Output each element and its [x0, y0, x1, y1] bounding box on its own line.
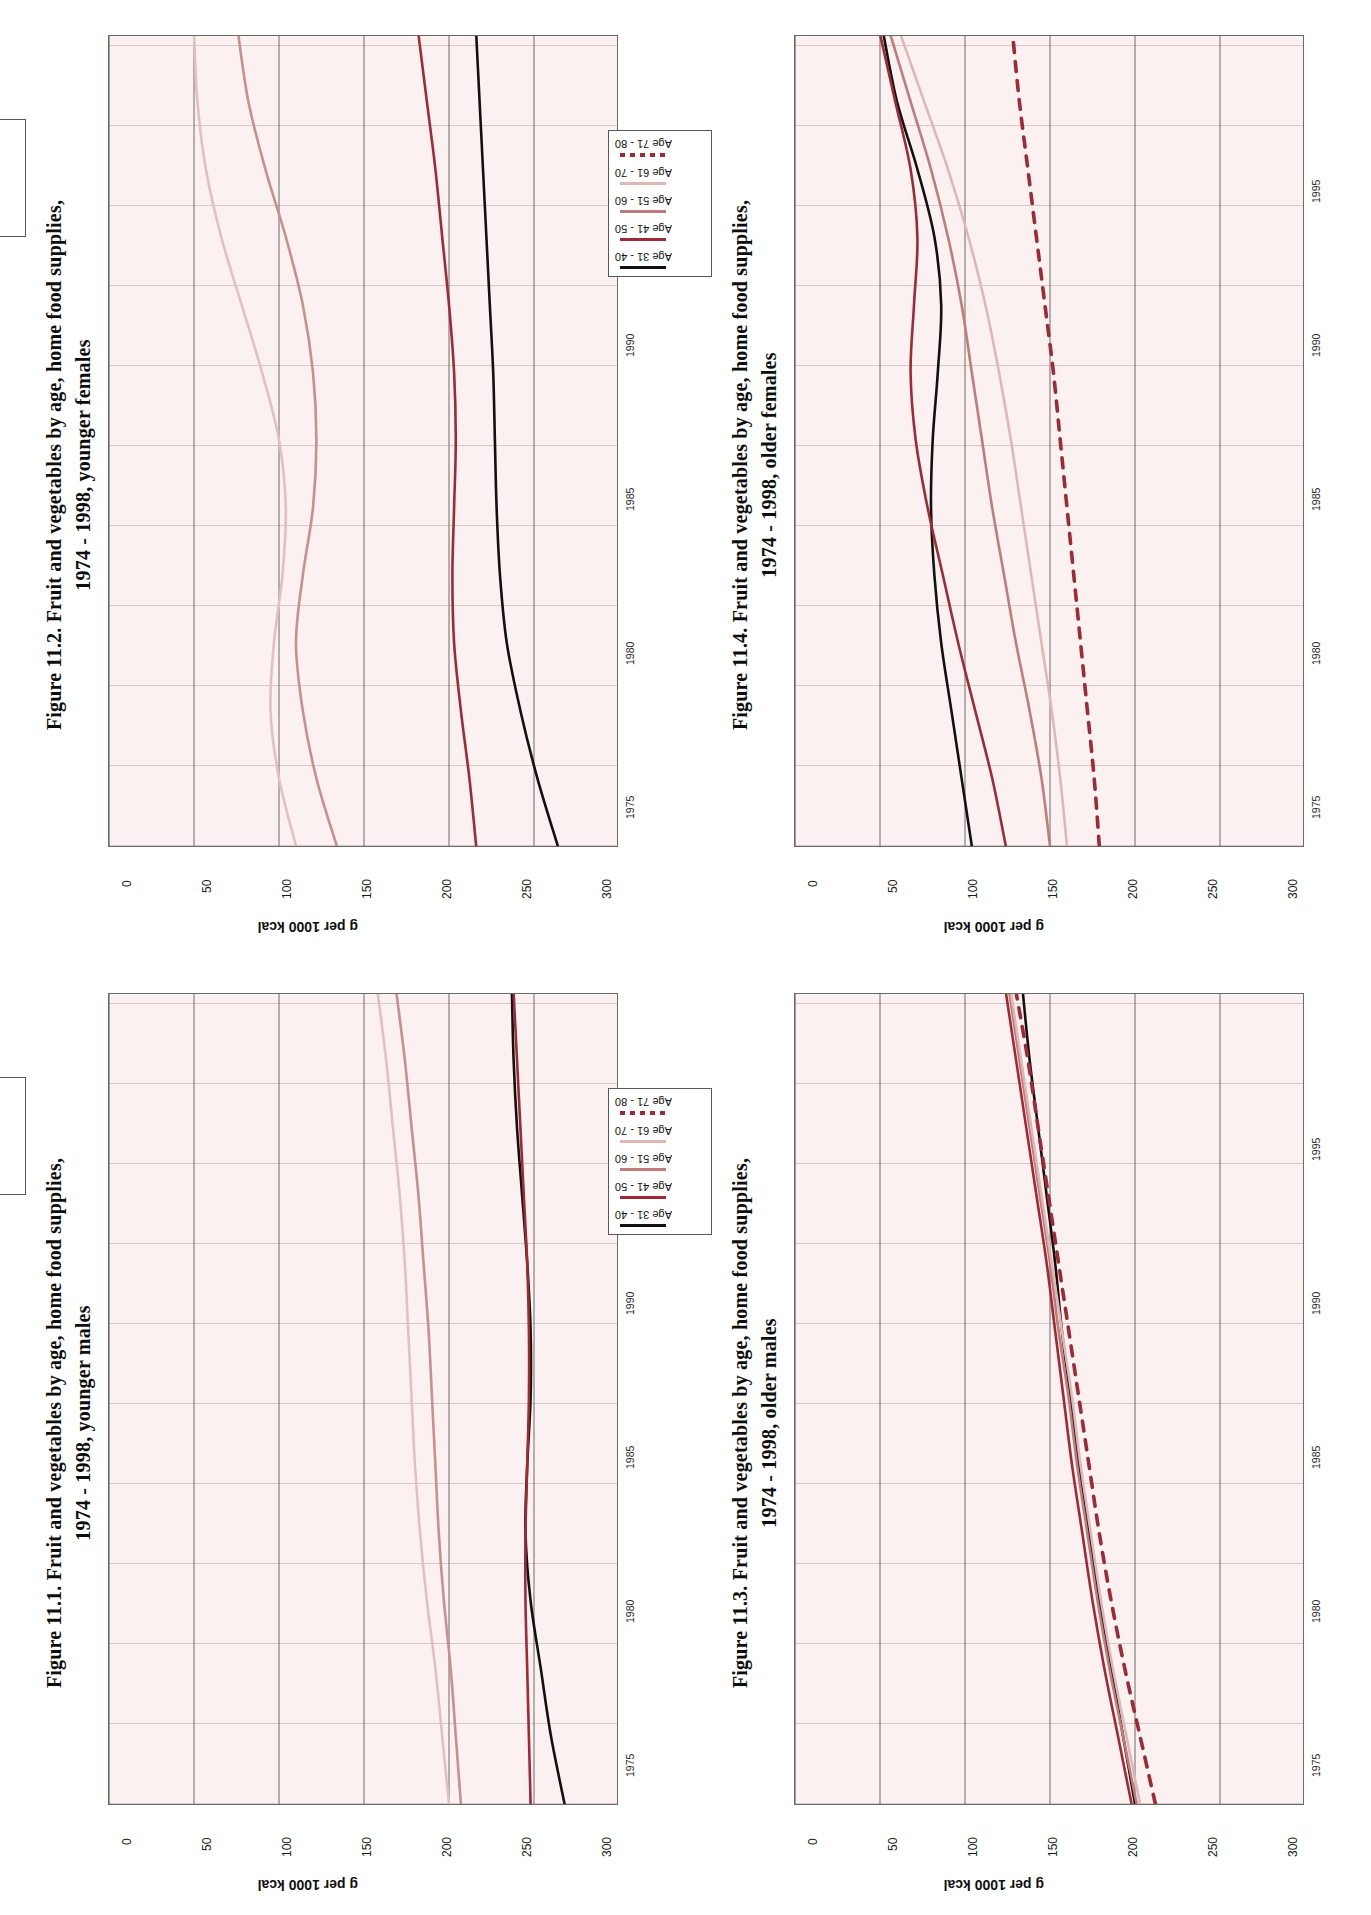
y-tick-0: 0: [806, 1838, 820, 1845]
legend-swatch-icon: [620, 1168, 666, 1171]
x-tick-1995: 1995: [1310, 1138, 1322, 1161]
legend-swatch-icon: [620, 238, 666, 241]
x-tick-1975: 1975: [1310, 796, 1322, 819]
plot-area: [108, 35, 618, 847]
legend-swatch-icon: [620, 266, 666, 269]
y-tick-50: 50: [886, 880, 900, 893]
series-line-3: [238, 35, 337, 846]
y-axis-title: g per 1000 kcal: [944, 1877, 1044, 1893]
x-tick-1990: 1990: [1310, 1292, 1322, 1315]
y-axis-title: g per 1000 kcal: [258, 919, 358, 935]
series-lines: [109, 35, 618, 846]
legend-swatch-icon: [620, 1196, 666, 1199]
legend-item-5[interactable]: Age 71 - 80: [615, 1096, 672, 1115]
legend-swatch-icon: [620, 1140, 666, 1143]
y-tick-0: 0: [806, 880, 820, 887]
figure-11-4: Figure 11.4. Fruit and vegetables by age…: [686, 0, 1371, 958]
y-tick-300: 300: [600, 1837, 614, 1857]
legend[interactable]: Age 31 - 40Age 41 - 50Age 51 - 60Age 61 …: [608, 130, 712, 277]
legend-swatch-icon: [620, 153, 666, 157]
y-axis-title: g per 1000 kcal: [258, 1877, 358, 1893]
legend-label: Age 31 - 40: [615, 251, 672, 262]
y-tick-300: 300: [1286, 879, 1300, 899]
y-tick-150: 150: [360, 879, 374, 899]
x-tick-1985: 1985: [624, 488, 636, 511]
y-tick-250: 250: [520, 879, 534, 899]
x-tick-1980: 1980: [1310, 1600, 1322, 1623]
legend-label: Age 41 - 50: [615, 223, 672, 234]
x-tick-1975: 1975: [624, 796, 636, 819]
y-tick-100: 100: [280, 1837, 294, 1857]
legend-swatch-icon: [620, 1111, 666, 1115]
x-tick-1990: 1990: [624, 334, 636, 357]
y-tick-0: 0: [120, 1838, 134, 1845]
series-line-1: [476, 35, 558, 846]
x-tick-1990: 1990: [1310, 334, 1322, 357]
y-tick-200: 200: [440, 1837, 454, 1857]
plot-area: [794, 35, 1304, 847]
y-tick-200: 200: [440, 879, 454, 899]
y-tick-100: 100: [966, 1837, 980, 1857]
y-tick-250: 250: [1206, 1837, 1220, 1857]
legend-item-2[interactable]: Age 41 - 50: [615, 223, 672, 241]
legend-swatch-icon: [620, 1224, 666, 1227]
legend-item-4[interactable]: Age 61 - 70: [615, 1125, 672, 1143]
series-line-4: [378, 993, 449, 1804]
legend-label: Age 71 - 80: [615, 1096, 672, 1107]
legend-swatch-icon: [620, 210, 666, 213]
plot-area: [794, 993, 1304, 1805]
y-tick-300: 300: [1286, 1837, 1300, 1857]
plot-area: [108, 993, 618, 1805]
series-line-1: [1023, 993, 1135, 1804]
legend[interactable]: Age 1 - 10Age 11 - 20Age 21 - 30Age 31 -…: [0, 1077, 26, 1195]
x-tick-1995: 1995: [1310, 180, 1322, 203]
legend-item-4[interactable]: Age 61 - 70: [615, 167, 672, 185]
y-tick-200: 200: [1126, 879, 1140, 899]
x-tick-1975: 1975: [624, 1754, 636, 1777]
legend-label: Age 61 - 70: [615, 167, 672, 178]
figure-title: Figure 11.3. Fruit and vegetables by age…: [726, 983, 784, 1863]
x-tick-1975: 1975: [1310, 1754, 1322, 1777]
legend-label: Age 31 - 40: [615, 1209, 672, 1220]
legend-swatch-icon: [620, 182, 666, 185]
figure-title: Figure 11.4. Fruit and vegetables by age…: [726, 25, 784, 905]
y-axis-title: g per 1000 kcal: [944, 919, 1044, 935]
y-tick-0: 0: [120, 880, 134, 887]
legend-item-3[interactable]: Age 51 - 60: [615, 1153, 672, 1171]
series-lines: [795, 35, 1304, 846]
legend-label: Age 61 - 70: [615, 1125, 672, 1136]
y-tick-150: 150: [360, 1837, 374, 1857]
y-tick-100: 100: [966, 879, 980, 899]
x-tick-1980: 1980: [624, 642, 636, 665]
legend-item-2[interactable]: Age 41 - 50: [615, 1181, 672, 1199]
legend[interactable]: Age 1 - 10Age 11 - 20Age 21 - 30Age 31 -…: [0, 119, 26, 237]
legend-label: Age 51 - 60: [615, 1153, 672, 1164]
y-tick-250: 250: [1206, 879, 1220, 899]
x-tick-1985: 1985: [1310, 1446, 1322, 1469]
series-line-3: [396, 993, 461, 1804]
series-line-4: [1011, 993, 1140, 1804]
y-tick-150: 150: [1046, 879, 1060, 899]
legend-item-3[interactable]: Age 51 - 60: [615, 195, 672, 213]
x-tick-1985: 1985: [624, 1446, 636, 1469]
x-tick-1985: 1985: [1310, 488, 1322, 511]
legend-item-1[interactable]: Age 31 - 40: [615, 1209, 672, 1227]
legend-item-1[interactable]: Age 31 - 40: [615, 251, 672, 269]
y-tick-100: 100: [280, 879, 294, 899]
y-tick-50: 50: [886, 1838, 900, 1851]
figure-11-1: Figure 11.1. Fruit and vegetables by age…: [0, 958, 686, 1915]
legend[interactable]: Age 31 - 40Age 41 - 50Age 51 - 60Age 61 …: [608, 1088, 712, 1235]
y-tick-50: 50: [200, 880, 214, 893]
series-line-5: [1013, 35, 1100, 846]
legend-label: Age 71 - 80: [615, 138, 672, 149]
legend-item-5[interactable]: Age 71 - 80: [615, 138, 672, 157]
series-lines: [795, 993, 1304, 1804]
x-tick-1980: 1980: [1310, 642, 1322, 665]
document-page: Figure 11.1. Fruit and vegetables by age…: [0, 0, 1371, 1915]
y-tick-50: 50: [200, 1838, 214, 1851]
figure-11-3: Figure 11.3. Fruit and vegetables by age…: [686, 958, 1371, 1915]
series-line-4: [194, 35, 296, 846]
series-lines: [109, 993, 618, 1804]
x-tick-1990: 1990: [624, 1292, 636, 1315]
y-tick-250: 250: [520, 1837, 534, 1857]
